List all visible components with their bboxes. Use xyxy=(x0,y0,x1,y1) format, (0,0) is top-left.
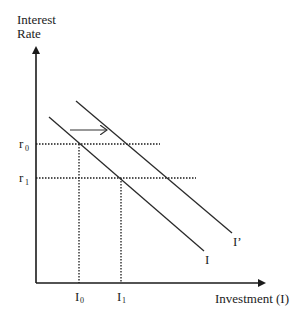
investment-curve-I-prime xyxy=(76,101,232,233)
investment-diagram: Interest Rate Investment (I) I I’ r 0 r … xyxy=(0,0,302,317)
r0-label: r 0 xyxy=(19,136,29,153)
y-axis-label-line2: Rate xyxy=(17,26,41,41)
svg-text:0: 0 xyxy=(25,144,29,153)
svg-text:1: 1 xyxy=(25,178,29,187)
investment-curve-I xyxy=(49,117,204,251)
x-axis-label: Investment (I) xyxy=(215,291,289,306)
curve-label-I: I xyxy=(205,252,209,267)
I0-label: I 0 xyxy=(75,289,84,305)
curve-label-I-prime: I’ xyxy=(233,234,242,249)
svg-text:0: 0 xyxy=(80,296,84,305)
svg-text:r: r xyxy=(19,136,24,151)
svg-text:r: r xyxy=(19,170,24,185)
svg-text:1: 1 xyxy=(122,296,126,305)
svg-text:I: I xyxy=(75,289,79,304)
svg-text:I: I xyxy=(117,289,121,304)
y-axis-label-line1: Interest xyxy=(17,12,56,27)
I1-label: I 1 xyxy=(117,289,126,305)
r1-label: r 1 xyxy=(19,170,29,187)
